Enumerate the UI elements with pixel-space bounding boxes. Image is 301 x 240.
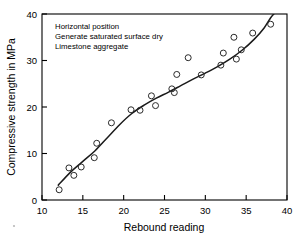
x-tick-label-30: 30 (200, 205, 211, 216)
y-tick-label-20: 20 (26, 102, 37, 113)
y-axis-label: Compressive strength in MPa (5, 38, 17, 176)
annotation-line-1: Horizontal position (55, 22, 119, 31)
y-tick-label-30: 30 (26, 55, 37, 66)
x-tick-label-20: 20 (118, 205, 129, 216)
rebound-compressive-strength-chart: 10152025303540 010203040 Rebound reading… (0, 0, 301, 240)
scan-speck (13, 225, 15, 227)
y-tick-label-0: 0 (32, 195, 37, 206)
y-tick-label-10: 10 (26, 148, 37, 159)
x-tick-label-10: 10 (37, 205, 48, 216)
annotation-line-2: Generate saturated surface dry (55, 32, 163, 41)
x-axis-label: Rebound reading (124, 221, 205, 233)
x-tick-label-15: 15 (78, 205, 89, 216)
x-tick-label-35: 35 (241, 205, 252, 216)
y-tick-label-40: 40 (26, 9, 37, 20)
x-tick-label-25: 25 (159, 205, 170, 216)
annotation-line-3: Limestone aggregate (55, 42, 128, 51)
x-tick-label-40: 40 (282, 205, 293, 216)
